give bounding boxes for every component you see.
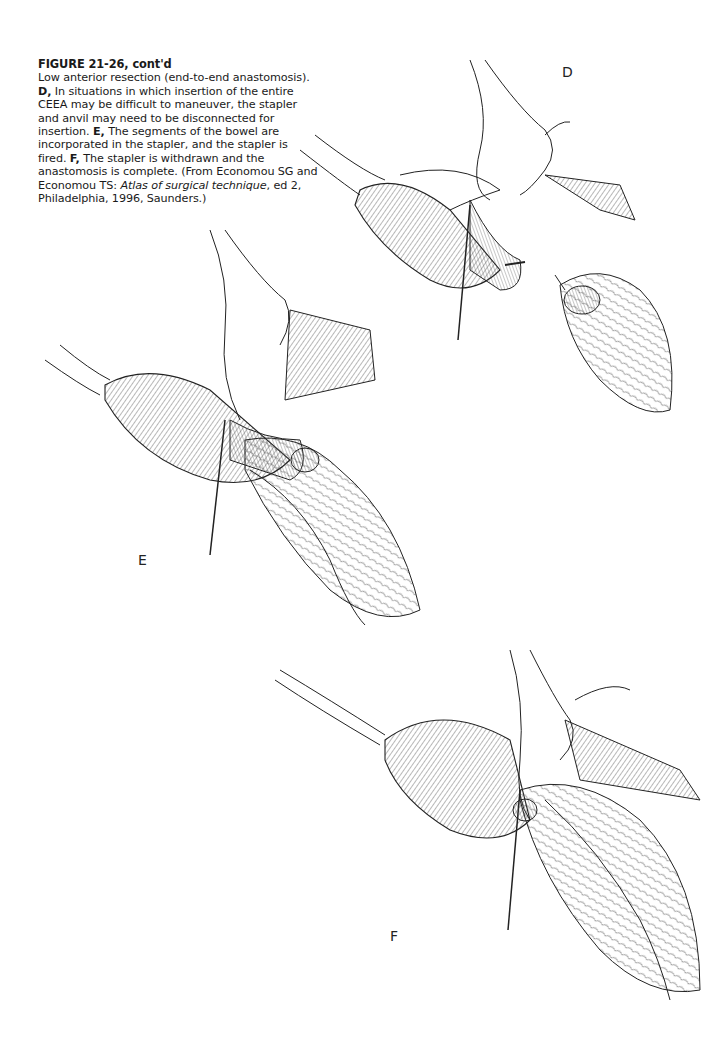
panel-e-drawing — [45, 230, 420, 625]
surgical-illustration — [0, 0, 728, 1037]
panel-f-drawing — [275, 650, 700, 1000]
